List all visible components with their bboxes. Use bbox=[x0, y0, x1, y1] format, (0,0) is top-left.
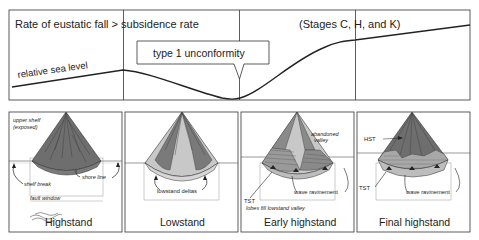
label-lobes: lobes fill lowstand valley bbox=[246, 205, 306, 211]
label-tst: TST bbox=[244, 198, 255, 204]
label-exposed: (exposed) bbox=[13, 124, 38, 130]
label-valley: valley bbox=[314, 137, 329, 143]
sea-level-diagram: Rate of eustatic fall > subsidence rate … bbox=[0, 0, 479, 240]
caption-highstand: Highstand bbox=[45, 216, 92, 228]
sea-level-curve-panel: Rate of eustatic fall > subsidence rate … bbox=[9, 10, 470, 100]
caption-final-highstand: Final highstand bbox=[379, 216, 450, 228]
label-shelf-break: shelf break bbox=[24, 181, 51, 187]
label-lowstand-deltas: lowstand deltas bbox=[157, 188, 197, 194]
header-left: Rate of eustatic fall > subsidence rate bbox=[15, 18, 199, 30]
panel-lowstand: lowstand deltas Lowstand bbox=[125, 112, 238, 232]
label-fault-window: fault window bbox=[30, 195, 61, 201]
label-hst: HST bbox=[364, 136, 376, 142]
label-wave-ravinement: wave ravinement bbox=[293, 189, 338, 195]
caption-lowstand: Lowstand bbox=[160, 216, 205, 228]
label-upper-shelf: upper shelf bbox=[13, 117, 41, 123]
header-right: (Stages C, H, and K) bbox=[299, 18, 401, 30]
caption-early-highstand: Early highstand bbox=[264, 216, 337, 228]
panel-final-highstand: HST TST wave ravinement Final highstand bbox=[357, 112, 470, 232]
callout-text: type 1 unconformity bbox=[153, 47, 245, 59]
panel-highstand: upper shelf (exposed) shelf break shore … bbox=[9, 112, 122, 232]
panel-early-highstand: abandoned valley wave ravinement TST lob… bbox=[241, 112, 354, 232]
label-wave-ravinement: wave ravinement bbox=[405, 189, 450, 195]
label-shore-line: shore line bbox=[82, 174, 106, 180]
label-tst: TST bbox=[359, 185, 370, 191]
